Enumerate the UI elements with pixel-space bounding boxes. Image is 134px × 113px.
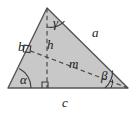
- altitude-label-h: h: [47, 38, 54, 51]
- angle-label-beta: β: [101, 69, 107, 82]
- side-label-c: c: [62, 96, 68, 109]
- side-label-a: a: [92, 26, 99, 39]
- angle-label-alpha: α: [20, 73, 27, 86]
- geometry-figure: a b c h m α β γ: [0, 0, 134, 113]
- side-label-b: b: [18, 40, 25, 53]
- angle-label-gamma: γ: [53, 16, 58, 29]
- segment-label-m: m: [69, 57, 78, 70]
